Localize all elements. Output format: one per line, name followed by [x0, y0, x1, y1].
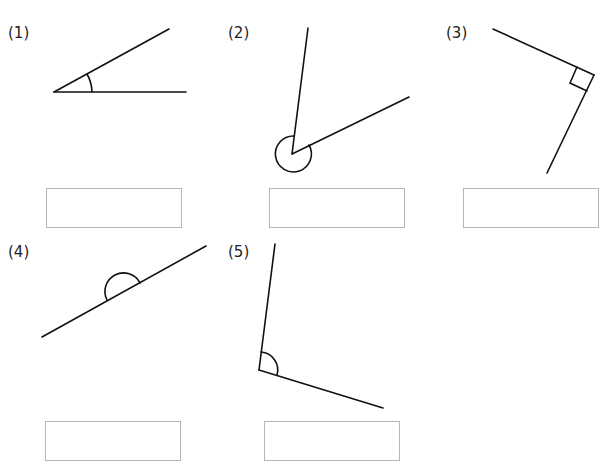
- obtuse-angle-diagram: [259, 244, 383, 408]
- right-angle-diagram: [493, 29, 594, 173]
- answer-box-1[interactable]: [46, 188, 182, 228]
- reflex-angle-diagram: [275, 28, 409, 172]
- answer-box-4[interactable]: [45, 421, 181, 461]
- answer-box-2[interactable]: [269, 188, 405, 228]
- answer-box-3[interactable]: [463, 188, 599, 228]
- answer-box-5[interactable]: [264, 421, 400, 461]
- straight-angle-diagram: [42, 246, 206, 337]
- acute-angle-diagram: [54, 29, 186, 92]
